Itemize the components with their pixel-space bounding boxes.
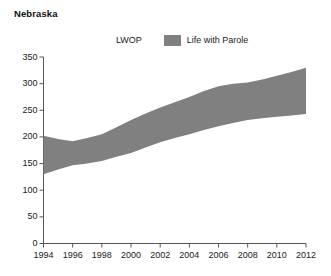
y-axis-tick-label: 0 [12,239,38,248]
x-axis-tick-label: 2004 [174,251,204,260]
x-axis-tick-label: 1998 [87,251,117,260]
x-axis-tick-label: 2012 [291,251,321,260]
x-axis-tick-label: 1994 [29,251,59,260]
x-axis-tick-label: 1996 [58,251,88,260]
y-axis-tick-label: 50 [12,212,38,221]
x-axis-tick-label: 2002 [145,251,175,260]
chart-container: Nebraska LWOP Life with Parole 050100150… [0,0,331,276]
y-axis-tick-label: 300 [12,79,38,88]
x-axis-tick-label: 2008 [233,251,263,260]
x-axis-ticks [44,244,307,248]
y-axis-tick-label: 350 [12,53,38,62]
area-band-series [44,68,307,175]
y-axis-ticks [40,57,44,244]
y-axis-tick-label: 200 [12,132,38,141]
y-axis-tick-label: 100 [12,186,38,195]
y-axis-tick-label: 150 [12,159,38,168]
y-axis-tick-label: 250 [12,106,38,115]
x-axis-tick-label: 2000 [116,251,146,260]
plot-area [0,0,331,276]
x-axis-tick-label: 2006 [204,251,234,260]
x-axis-tick-label: 2010 [262,251,292,260]
